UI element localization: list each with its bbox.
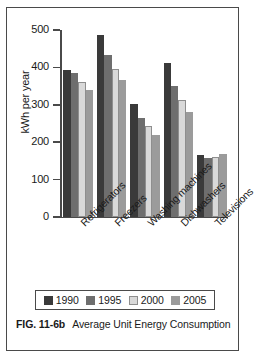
y-axis-tick (53, 29, 60, 31)
legend-swatch-icon (171, 296, 180, 305)
y-axis-tick (53, 141, 60, 143)
bar (86, 90, 93, 217)
bar (63, 70, 70, 217)
y-axis-tick (53, 67, 60, 69)
chart-legend: 1990199520002005 (35, 290, 215, 310)
legend-swatch-icon (44, 296, 53, 305)
bar (186, 112, 193, 217)
figure-caption: FIG. 11-6bAverage Unit Energy Consumptio… (16, 317, 231, 331)
legend-item: 2005 (171, 294, 206, 306)
figure-frame: 5004003002001000 kWh per year Refrigerat… (6, 7, 239, 351)
y-axis-tick (53, 179, 60, 181)
bar (119, 80, 126, 217)
y-axis-tick-label: 500 (9, 24, 49, 35)
y-axis-tick (53, 216, 60, 218)
legend-label: 2000 (141, 294, 164, 306)
bar (78, 82, 85, 217)
bar (145, 126, 152, 217)
legend-item: 1995 (86, 294, 121, 306)
figure-caption-text: Average Unit Energy Consumption (72, 318, 230, 330)
bar-group (63, 30, 93, 217)
legend-swatch-icon (129, 296, 138, 305)
figure-number: FIG. 11-6b (16, 318, 65, 330)
bar (71, 73, 78, 217)
legend-label: 1995 (98, 294, 121, 306)
chart-plot-area: 5004003002001000 kWh per year Refrigerat… (7, 8, 240, 270)
bar-groups (62, 30, 229, 217)
y-axis-title: kWh per year (19, 56, 31, 148)
legend-swatch-icon (86, 296, 95, 305)
bar (97, 35, 104, 217)
y-axis-tick (53, 104, 60, 106)
y-axis-tick-label: 0 (9, 211, 49, 222)
bar-group (130, 30, 160, 217)
legend-item: 2000 (129, 294, 164, 306)
legend-label: 1990 (56, 294, 79, 306)
y-axis-tick-label: 100 (9, 174, 49, 185)
legend-label: 2005 (183, 294, 206, 306)
legend-item: 1990 (44, 294, 79, 306)
